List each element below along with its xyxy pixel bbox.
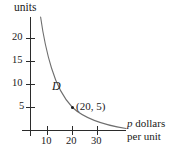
data-point-marker (71, 106, 74, 109)
demand-curve-figure: units 20 15 10 5 10 20 30 D (20, 5) p do… (0, 0, 171, 160)
x-axis-label-line1: dollars (133, 117, 166, 129)
x-axis-label: p dollarsper unit (127, 117, 171, 143)
x-axis-label-line2: per unit (127, 130, 161, 142)
data-point-label: (20, 5) (76, 101, 105, 112)
y-axis-tick-label-5: 5 (19, 101, 24, 112)
y-axis-tick-label-20: 20 (12, 32, 23, 43)
y-axis-tick-label-15: 15 (12, 55, 23, 66)
x-axis-tick-label-20: 20 (66, 136, 77, 147)
y-axis-label: units (14, 2, 36, 14)
x-axis-tick-label-30: 30 (91, 136, 102, 147)
demand-curve-label: D (52, 80, 61, 92)
x-axis-tick-label-10: 10 (41, 136, 52, 147)
y-axis-tick-label-10: 10 (12, 78, 23, 89)
